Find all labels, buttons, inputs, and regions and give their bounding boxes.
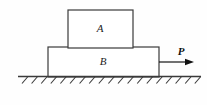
physics-diagram: A B P [0,0,207,105]
diagram-canvas: A B P [0,0,207,105]
force-label-p: P [178,45,185,57]
block-a-label: A [96,22,104,34]
block-b-label: B [100,55,107,67]
